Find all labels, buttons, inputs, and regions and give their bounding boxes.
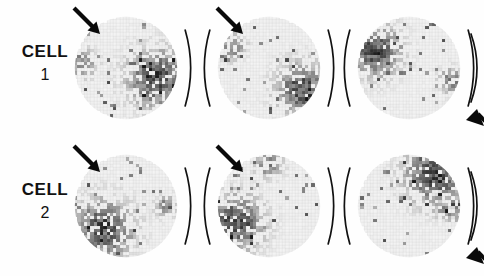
rf-heatmap bbox=[357, 16, 461, 120]
rf-heatmap bbox=[217, 154, 321, 258]
rf-heatmap bbox=[74, 16, 178, 120]
figure-receptive-field-maps: CELL 1 CELL 2 bbox=[0, 0, 484, 276]
rf-heatmap-canvas bbox=[74, 154, 178, 258]
figure-row-cell-2: CELL 2 bbox=[0, 138, 484, 276]
rf-heatmap bbox=[357, 154, 461, 258]
rf-heatmap-canvas bbox=[217, 16, 321, 120]
rf-heatmap-canvas bbox=[357, 154, 461, 258]
rf-panel-cell1-cond2 bbox=[205, 0, 355, 138]
rf-heatmap bbox=[217, 16, 321, 120]
rf-panel-cell2-cond2 bbox=[205, 138, 355, 276]
rf-panel-cell1-cond3 bbox=[345, 0, 484, 138]
rf-panel-cell1-cond1 bbox=[62, 0, 212, 138]
rf-heatmap-canvas bbox=[357, 16, 461, 120]
rf-heatmap-canvas bbox=[217, 154, 321, 258]
rf-heatmap-canvas bbox=[74, 16, 178, 120]
rf-panel-cell2-cond3 bbox=[345, 138, 484, 276]
figure-row-cell-1: CELL 1 bbox=[0, 0, 484, 138]
rf-heatmap bbox=[74, 154, 178, 258]
rf-panel-cell2-cond1 bbox=[62, 138, 212, 276]
